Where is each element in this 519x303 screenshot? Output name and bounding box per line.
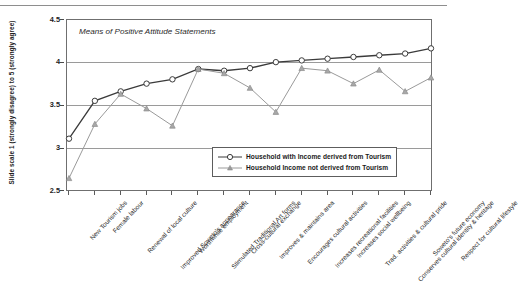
data-point xyxy=(273,59,278,64)
y-axis-title: Slide scale 1 (strongly disagree) to 5 (… xyxy=(8,8,15,198)
data-point xyxy=(299,58,304,63)
x-tick-mark xyxy=(352,191,353,195)
data-point xyxy=(66,136,71,141)
legend-marker-triangle-icon xyxy=(217,163,243,173)
data-point xyxy=(428,46,433,51)
y-tick-label-3-5: 3.5 xyxy=(50,101,60,108)
legend-entry-non-tourism-income: Household Income not derived from Touris… xyxy=(217,162,391,173)
x-tick-mark xyxy=(120,191,121,195)
x-tick-mark xyxy=(404,191,405,195)
legend-marker-circle-icon xyxy=(217,152,243,162)
data-point xyxy=(247,85,253,90)
data-point xyxy=(376,67,382,72)
data-point xyxy=(325,56,330,61)
x-axis-label-4: Worthwhile employment xyxy=(197,199,249,254)
y-tick-label-4-5: 4.5 xyxy=(50,16,60,23)
y-tick-mark-4 xyxy=(60,62,64,63)
y-axis-title-text: Slide scale 1 (strongly disagree) to 5 (… xyxy=(8,20,15,184)
x-tick-mark xyxy=(94,191,95,195)
x-tick-mark xyxy=(430,191,431,195)
data-point xyxy=(377,53,382,58)
data-point xyxy=(351,54,356,59)
x-tick-mark xyxy=(171,191,172,195)
x-axis-tick-group xyxy=(0,191,447,197)
x-axis-labels: New Tourism jobsFemale labourRenewal of … xyxy=(0,191,447,303)
x-tick-mark xyxy=(146,191,147,195)
x-tick-mark xyxy=(223,191,224,195)
x-tick-mark xyxy=(275,191,276,195)
data-point xyxy=(170,77,175,82)
data-point xyxy=(92,98,97,103)
x-tick-mark xyxy=(197,191,198,195)
data-point xyxy=(247,65,252,70)
x-tick-mark xyxy=(327,191,328,195)
y-tick-mark-3-5 xyxy=(60,105,64,106)
x-tick-mark xyxy=(301,191,302,195)
x-axis-label-2: Renewal of local culture xyxy=(146,199,198,254)
data-point xyxy=(170,123,176,128)
x-tick-mark xyxy=(378,191,379,195)
data-point xyxy=(402,51,407,56)
legend-entry-tourism-income: Household with Income derived from Touri… xyxy=(217,151,391,162)
legend-label-non-tourism-income: Household Income not derived from Touris… xyxy=(246,164,388,171)
y-tick-mark-4-5 xyxy=(60,19,64,20)
series-line-0 xyxy=(69,48,431,138)
data-point xyxy=(66,175,72,180)
data-point xyxy=(351,81,357,86)
x-tick-mark xyxy=(68,191,69,195)
page-top-divider xyxy=(0,5,447,6)
data-point xyxy=(428,75,434,80)
data-point xyxy=(144,81,149,86)
y-tick-mark-3 xyxy=(60,148,64,149)
data-point xyxy=(144,106,150,111)
legend-label-tourism-income: Household with Income derived from Touri… xyxy=(246,153,391,160)
x-tick-mark xyxy=(249,191,250,195)
legend: Household with Income derived from Touri… xyxy=(212,147,397,177)
